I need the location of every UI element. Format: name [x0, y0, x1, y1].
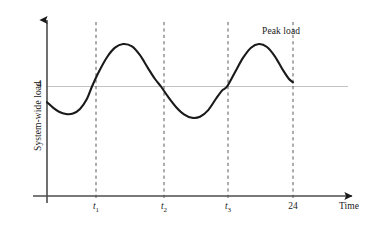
- load-curve: [47, 44, 293, 118]
- x-axis-label: Time: [339, 201, 359, 211]
- x-tick-label-t1: t1: [93, 201, 99, 214]
- x-tick-24-base: 24: [288, 201, 298, 211]
- x-tick-label-t2: t2: [161, 201, 167, 214]
- x-tick-label-24: 24: [288, 201, 298, 211]
- y-tick-label-4: 4: [37, 79, 42, 89]
- annotation-peak-load: Peak load: [262, 26, 300, 36]
- x-tick-t1-subscript: 1: [96, 206, 100, 214]
- y-axis-label: System-wide load: [33, 46, 43, 186]
- chart-plot-area: [0, 0, 376, 232]
- x-tick-t3-subscript: 3: [228, 206, 232, 214]
- x-tick-t2-subscript: 2: [164, 206, 168, 214]
- x-tick-label-t3: t3: [225, 201, 231, 214]
- chart-figure: System-wide load 4 t1 t2 t3 24 Time Peak…: [0, 0, 376, 232]
